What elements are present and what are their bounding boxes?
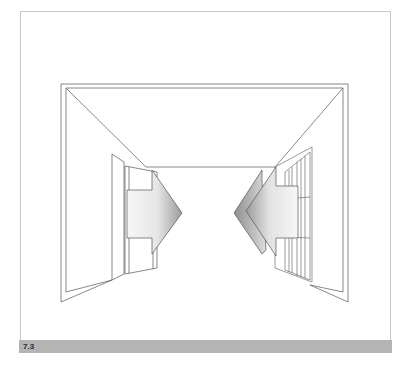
figure-caption-bar: 7.3 xyxy=(19,340,392,353)
corridor-illustration xyxy=(0,0,411,375)
figure-number: 7.3 xyxy=(23,340,34,353)
